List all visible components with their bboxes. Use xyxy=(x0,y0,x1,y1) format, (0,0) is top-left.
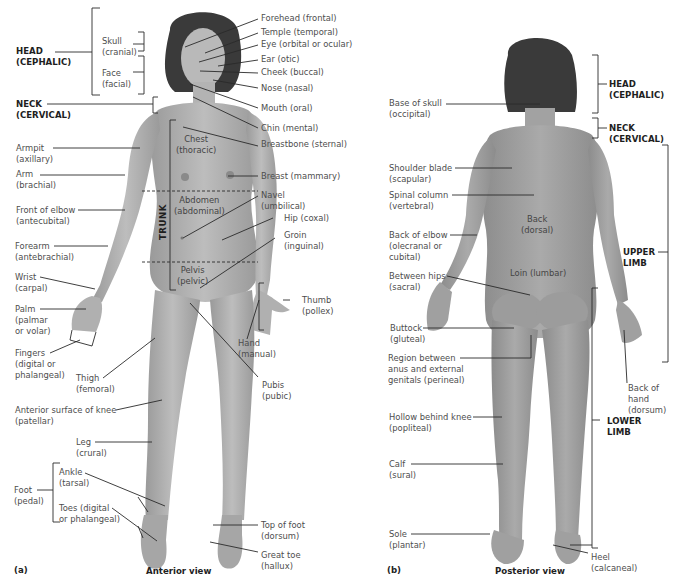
label-buttock: Buttock (gluteal) xyxy=(390,323,425,345)
label-foot-term: (pedal) xyxy=(14,496,44,507)
region-neck-subtitle: (CERVICAL) xyxy=(16,110,71,121)
label-nose: Nose (nasal) xyxy=(261,83,313,94)
label-back-of-elbow-name: Back of elbow xyxy=(389,230,448,241)
label-wrist: Wrist (carpal) xyxy=(15,272,48,294)
label-sole: Sole (plantar) xyxy=(389,529,425,551)
label-skull: Skull (cranial) xyxy=(102,36,137,58)
label-great-toe: Great toe (hallux) xyxy=(261,550,301,572)
label-knee: Anterior surface of knee (patellar) xyxy=(15,405,116,427)
label-top-of-foot: Top of foot (dorsum) xyxy=(261,520,305,542)
region-head-posterior-subtitle: (CEPHALIC) xyxy=(609,90,664,101)
label-sole-name: Sole xyxy=(389,529,425,540)
region-head-anterior: HEAD (CEPHALIC) xyxy=(16,46,71,68)
label-ankle: Ankle (tarsal) xyxy=(59,467,89,489)
label-armpit: Armpit (axillary) xyxy=(16,143,53,165)
label-abdomen-name: Abdomen xyxy=(174,195,225,206)
label-face: Face (facial) xyxy=(102,68,131,90)
label-arm-term: (brachial) xyxy=(16,180,56,191)
view-title-posterior: Posterior view xyxy=(495,566,565,576)
label-loin: Loin (lumbar) xyxy=(510,268,566,279)
label-between-hips: Between hips (sacral) xyxy=(389,271,446,293)
label-spinal-column: Spinal column (vertebral) xyxy=(389,190,448,212)
label-eye: Eye (orbital or ocular) xyxy=(261,39,352,50)
label-groin-term: (inguinal) xyxy=(284,241,324,252)
label-top-of-foot-term: (dorsum) xyxy=(261,531,305,542)
label-pelvis-name: Pelvis xyxy=(177,265,208,276)
label-forehead: Forehead (frontal) xyxy=(261,13,337,24)
panel-label-a: (a) xyxy=(14,565,28,575)
label-face-term: (facial) xyxy=(102,79,131,90)
label-foot-name: Foot xyxy=(14,485,44,496)
label-back-of-hand-line-2: hand xyxy=(628,394,666,405)
label-skull-term: (cranial) xyxy=(102,47,137,58)
label-abdomen-term: (abdominal) xyxy=(174,206,225,217)
label-palm-term-2: or volar) xyxy=(15,326,50,337)
label-perineal: Region between anus and external genital… xyxy=(388,353,465,386)
label-thigh: Thigh (femoral) xyxy=(76,373,115,395)
label-toes: Toes (digital or phalangeal) xyxy=(59,503,120,525)
label-thigh-name: Thigh xyxy=(76,373,115,384)
label-chest-name: Chest xyxy=(176,134,216,145)
label-front-of-elbow-term: (antecubital) xyxy=(16,216,75,227)
label-groin-name: Groin xyxy=(284,230,324,241)
region-head-title: HEAD xyxy=(16,46,71,57)
label-hip: Hip (coxal) xyxy=(284,213,329,224)
anterior-body xyxy=(72,12,290,568)
region-head-posterior-title: HEAD xyxy=(609,79,664,90)
label-forearm: Forearm (antebrachial) xyxy=(15,241,74,263)
label-temple: Temple (temporal) xyxy=(261,27,338,38)
region-lower-limb-line-2: LIMB xyxy=(607,427,641,438)
region-lower-limb-line-1: LOWER xyxy=(607,416,641,427)
label-hand-term: (manual) xyxy=(238,349,276,360)
label-hand: Hand (manual) xyxy=(238,338,276,360)
label-breastbone: Breastbone (sternal) xyxy=(261,139,347,150)
label-buttock-term: (gluteal) xyxy=(390,334,425,345)
label-back: Back (dorsal) xyxy=(521,214,553,236)
label-fingers-name: Fingers xyxy=(15,348,65,359)
label-toes-name: Toes (digital xyxy=(59,503,120,514)
label-cheek: Cheek (buccal) xyxy=(261,67,324,78)
label-perineal-line-1: Region between xyxy=(388,353,465,364)
region-upper-limb-line-2: LIMB xyxy=(623,258,655,269)
label-chest: Chest (thoracic) xyxy=(176,134,216,156)
label-back-name: Back xyxy=(521,214,553,225)
label-mouth: Mouth (oral) xyxy=(261,103,312,114)
label-calf-term: (sural) xyxy=(389,470,416,481)
region-upper-limb: UPPER LIMB xyxy=(623,247,655,269)
label-fingers-term-1: (digital or xyxy=(15,359,65,370)
label-between-hips-name: Between hips xyxy=(389,271,446,282)
label-navel: Navel (umbilical) xyxy=(261,190,305,212)
label-sole-term: (plantar) xyxy=(389,540,425,551)
label-back-of-elbow: Back of elbow (olecranal or cubital) xyxy=(389,230,448,263)
label-pubis-term: (pubic) xyxy=(262,391,291,402)
label-top-of-foot-name: Top of foot xyxy=(261,520,305,531)
label-armpit-term: (axillary) xyxy=(16,154,53,165)
label-calf-name: Calf xyxy=(389,459,416,470)
label-ankle-term: (tarsal) xyxy=(59,478,89,489)
region-neck-posterior-title: NECK xyxy=(609,123,664,134)
label-wrist-name: Wrist xyxy=(15,272,48,283)
label-abdomen: Abdomen (abdominal) xyxy=(174,195,225,217)
region-neck-title: NECK xyxy=(16,99,71,110)
label-thumb: Thumb (pollex) xyxy=(302,295,334,317)
label-skull-name: Skull xyxy=(102,36,137,47)
label-spinal-column-term: (vertebral) xyxy=(389,201,448,212)
label-fingers-term-2: phalangeal) xyxy=(15,370,65,381)
label-back-term: (dorsal) xyxy=(521,225,553,236)
label-front-of-elbow: Front of elbow (antecubital) xyxy=(16,205,75,227)
label-pubis: Pubis (pubic) xyxy=(262,380,291,402)
label-hollow-behind-knee: Hollow behind knee (popliteal) xyxy=(389,412,472,434)
region-neck-posterior: NECK (CERVICAL) xyxy=(609,123,664,145)
label-spinal-column-name: Spinal column xyxy=(389,190,448,201)
label-hollow-behind-knee-term: (popliteal) xyxy=(389,423,472,434)
label-back-of-elbow-term-1: (olecranal or xyxy=(389,241,448,252)
label-thumb-term: (pollex) xyxy=(302,306,334,317)
label-palm-name: Palm xyxy=(15,304,50,315)
label-heel-term: (calcaneal) xyxy=(591,563,637,574)
label-navel-term: (umbilical) xyxy=(261,201,305,212)
label-fingers: Fingers (digital or phalangeal) xyxy=(15,348,65,381)
label-armpit-name: Armpit xyxy=(16,143,53,154)
label-great-toe-term: (hallux) xyxy=(261,561,301,572)
region-head-posterior: HEAD (CEPHALIC) xyxy=(609,79,664,101)
label-perineal-line-3: genitals (perineal) xyxy=(388,375,465,386)
